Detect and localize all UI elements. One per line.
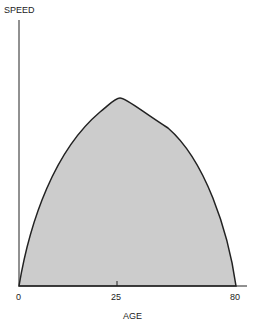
x-axis-label: AGE <box>123 311 142 321</box>
speed-curve-area <box>19 98 236 286</box>
x-tick-label-0: 0 <box>16 292 21 302</box>
y-axis-label: SPEED <box>4 5 35 15</box>
x-tick-label-80: 80 <box>230 292 240 302</box>
chart-canvas <box>0 0 253 328</box>
x-tick-label-25: 25 <box>111 292 121 302</box>
